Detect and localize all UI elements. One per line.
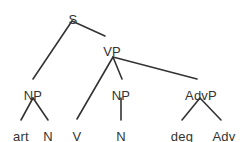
tree-edge-vp-to-np2: [113, 57, 122, 79]
tree-node-art: art: [13, 130, 29, 142]
tree-edge-vp-to-v: [77, 57, 113, 119]
tree-node-v: V: [73, 130, 82, 142]
tree-node-adv: Adv: [212, 130, 235, 142]
tree-node-s: S: [69, 13, 78, 26]
tree-edge-s-to-np1: [33, 21, 72, 79]
tree-edges-layer: [0, 0, 247, 142]
tree-node-np1: NP: [24, 89, 42, 102]
syntax-tree-diagram: SNPVPartNVNPNAdvPdegAdv: [0, 0, 247, 142]
tree-edge-vp-to-advp: [113, 57, 197, 79]
tree-node-n1: N: [43, 130, 53, 142]
tree-node-vp: VP: [103, 45, 121, 58]
tree-node-advp: AdvP: [185, 89, 217, 102]
tree-node-deg: deg: [171, 130, 193, 142]
tree-node-np2: NP: [112, 89, 130, 102]
tree-node-n2: N: [116, 130, 126, 142]
